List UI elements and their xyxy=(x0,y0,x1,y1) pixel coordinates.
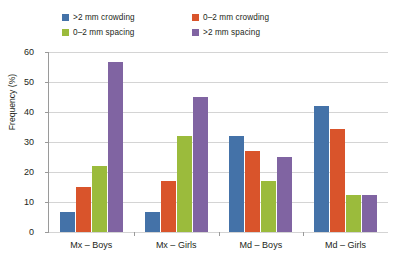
x-tick-label: Md – Boys xyxy=(219,240,304,250)
bar xyxy=(330,129,345,233)
bar-groups xyxy=(49,52,388,232)
bar xyxy=(261,181,276,232)
bar xyxy=(229,136,244,232)
x-tick-label: Md – Girls xyxy=(303,240,388,250)
bar xyxy=(314,106,329,232)
bar xyxy=(177,136,192,232)
x-tick-labels: Mx – BoysMx – GirlsMd – BoysMd – Girls xyxy=(49,240,388,250)
y-tick-label: 0 xyxy=(0,228,34,237)
bar xyxy=(277,157,292,232)
y-tick-label: 20 xyxy=(0,168,34,177)
bar-chart: >2 mm crowding 0–2 mm crowding 0–2 mm sp… xyxy=(0,0,401,276)
bar-group xyxy=(49,52,134,232)
bar-group xyxy=(219,52,304,232)
bar xyxy=(362,195,377,233)
bar xyxy=(108,62,123,232)
y-tick-label: 30 xyxy=(0,138,34,147)
y-tick-label: 40 xyxy=(0,108,34,117)
bar xyxy=(76,187,91,232)
y-tick-label: 60 xyxy=(0,48,34,57)
bar xyxy=(92,166,107,232)
bar xyxy=(193,97,208,232)
bar xyxy=(346,195,361,233)
x-tick-label: Mx – Boys xyxy=(49,240,134,250)
plot-area: 0102030405060 xyxy=(49,52,388,232)
bar xyxy=(145,212,160,232)
bar xyxy=(60,212,75,232)
bar-group xyxy=(134,52,219,232)
plot-wrapper: Frequency (%) 0102030405060 Mx – BoysMx … xyxy=(0,0,401,276)
bar xyxy=(161,181,176,232)
x-tick-label: Mx – Girls xyxy=(134,240,219,250)
y-tick-label: 50 xyxy=(0,78,34,87)
y-tick-label: 10 xyxy=(0,198,34,207)
bar-group xyxy=(303,52,388,232)
y-tick-mark xyxy=(45,232,49,233)
bar xyxy=(245,151,260,232)
